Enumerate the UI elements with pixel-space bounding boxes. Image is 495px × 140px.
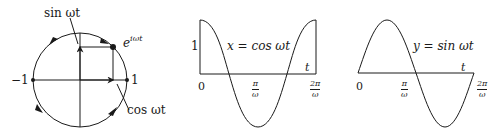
point-minus-one (31, 78, 35, 82)
cos-tick-2pi: 2πω (310, 80, 320, 99)
sin-leader-line (70, 18, 78, 44)
sin-label: sin ωt (44, 7, 80, 19)
sin-tick-2pi-den: ω (479, 91, 486, 99)
rotation-arrow-icons (35, 37, 117, 116)
sin-equation: y = sin ωt (413, 40, 474, 52)
exp-label: eiωt (123, 35, 142, 49)
phasor-diagram (31, 18, 129, 127)
cos-label: cos ωt (127, 104, 166, 116)
cos-tick-2pi-den: ω (312, 91, 319, 99)
sin-tick-pi-den: ω (401, 91, 408, 99)
cos-equation: x = cos ωt (227, 40, 290, 52)
cos-tick-pi: πω (252, 80, 259, 99)
sin-graph (358, 20, 474, 127)
projection-lines (80, 47, 113, 80)
sin-tick-pi-num: π (402, 80, 407, 88)
exp-power: iωt (130, 34, 142, 43)
sin-tick-pi: πω (401, 80, 408, 99)
cos-t-label: t (305, 62, 309, 73)
cos-graph (200, 20, 316, 127)
one-label: 1 (131, 74, 139, 86)
cos-tick-pi-num: π (253, 80, 258, 88)
minus-one-label: −1 (11, 74, 29, 86)
point-one (125, 78, 129, 82)
phasor-tip-point (110, 44, 116, 50)
sin-tick-2pi-num: 2π (477, 80, 487, 88)
cos-amplitude-label: 1 (191, 40, 199, 52)
sin-tick-2pi: 2πω (477, 80, 487, 99)
diagram-canvas (0, 0, 495, 140)
sin-t-label: t (461, 62, 465, 73)
cos-tick-2pi-num: 2π (310, 80, 320, 88)
sin-tick-zero: 0 (356, 81, 363, 92)
cos-tick-zero: 0 (198, 81, 205, 92)
cos-label-text: cos ωt (127, 103, 166, 117)
sin-label-text: sin ωt (44, 6, 80, 20)
cos-tick-pi-den: ω (252, 91, 259, 99)
